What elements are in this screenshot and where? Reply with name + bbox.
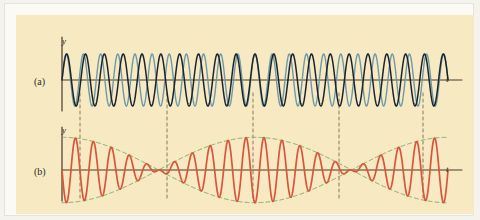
figure-root: (a) (b) y t y t	[0, 0, 480, 220]
panel-a-x-axis-label: t	[446, 75, 449, 84]
figure-frame: (a) (b) y t y t	[4, 3, 474, 216]
panel-a-y-axis-label: y	[62, 37, 66, 46]
plot-panel: (a) (b) y t y t	[16, 15, 474, 214]
panel-b-x-axis-label: t	[446, 165, 449, 174]
panel-a-label: (a)	[34, 77, 45, 87]
panel-b-y-axis-label: y	[62, 126, 66, 135]
envelope-lower	[62, 170, 448, 203]
wave-plot-svg	[16, 15, 474, 214]
panel-b-label: (b)	[34, 167, 46, 177]
envelope-upper	[62, 137, 448, 170]
